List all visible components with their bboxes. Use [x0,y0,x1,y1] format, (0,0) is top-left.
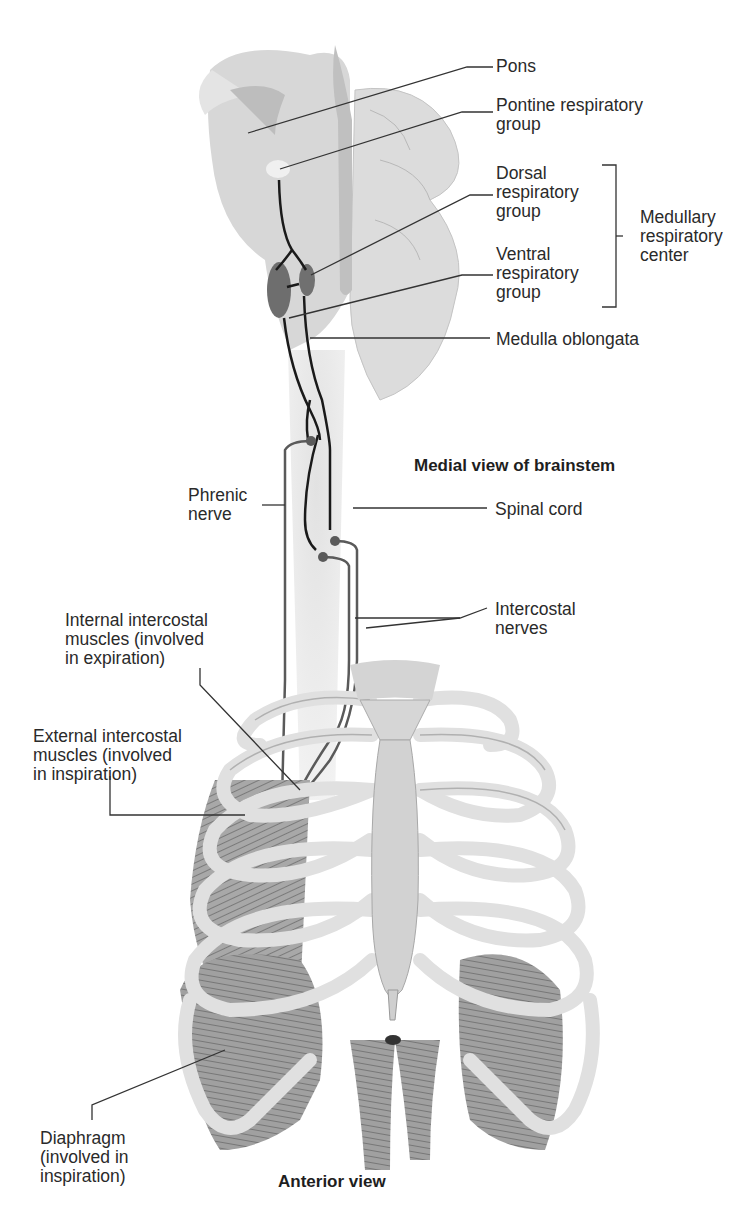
phrenic-motor-neuron [306,436,316,446]
label-medullary-respiratory-center: Medullary respiratory center [640,208,723,265]
label-phrenic-nerve: Phrenic nerve [188,486,247,524]
label-pontine-respiratory-group: Pontine respiratory group [496,96,643,134]
label-medulla-oblongata: Medulla oblongata [496,330,639,349]
label-internal-intercostal-muscles: Internal intercostal muscles (involved i… [65,611,208,668]
rib-cage [180,660,593,1170]
intercostal-motor-neuron-2 [318,552,328,562]
anatomy-illustration [0,0,741,1211]
label-dorsal-respiratory-group: Dorsal respiratory group [496,164,579,221]
intercostal-motor-neuron-1 [330,536,340,546]
label-spinal-cord: Spinal cord [495,500,583,519]
label-intercostal-nerves: Intercostal nerves [495,600,576,638]
label-external-intercostal-muscles: External intercostal muscles (involved i… [33,727,182,784]
label-ventral-respiratory-group: Ventral respiratory group [496,245,579,302]
label-diaphragm: Diaphragm (involved in inspiration) [40,1129,129,1186]
title-anterior-view: Anterior view [278,1172,386,1192]
label-pons: Pons [496,57,536,76]
title-medial-view: Medial view of brainstem [414,456,615,476]
